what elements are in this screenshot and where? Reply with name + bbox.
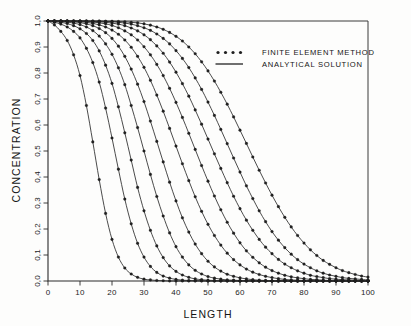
fem-marker [181,57,184,60]
fem-marker [213,153,216,156]
fem-marker [155,45,158,48]
fem-marker [251,156,254,159]
fem-marker [226,252,229,255]
fem-marker [347,277,350,280]
fem-marker [111,53,114,56]
fem-marker [200,123,203,126]
fem-marker [91,141,94,144]
fem-marker [98,35,101,38]
fem-marker [239,207,242,210]
fem-marker [322,259,325,262]
fem-marker [85,104,88,107]
fem-marker [149,120,152,123]
fem-marker [155,140,158,143]
fem-marker [271,269,274,272]
fem-marker [187,264,190,267]
fem-marker [143,209,146,212]
fem-marker [117,33,120,36]
fem-marker [168,181,171,184]
fem-marker [168,127,171,130]
fem-marker [53,24,56,27]
x-axis-tick-labels: 0102030405060708090100 [46,288,376,297]
fem-marker [194,278,197,281]
fem-marker [258,273,261,276]
fem-marker [175,245,178,248]
fem-marker [181,116,184,119]
fem-marker [111,20,114,23]
fem-marker [130,27,133,30]
fem-marker [207,70,210,73]
fem-marker [136,30,139,33]
fem-marker [130,33,133,36]
fem-marker [239,279,242,282]
fem-marker [194,148,197,151]
fem-marker [264,279,267,282]
fem-marker [219,244,222,247]
y-tick-label: 0,7 [33,93,42,105]
fem-marker [335,266,338,269]
fem-marker [79,37,82,40]
x-tick-label: 60 [235,288,245,297]
fem-marker [213,114,216,117]
fem-marker [200,164,203,167]
fem-marker [271,252,274,255]
fem-marker [155,245,158,248]
fem-marker [130,46,133,49]
fem-marker [149,24,152,27]
fem-marker [162,256,165,259]
fem-marker [232,157,235,160]
fem-marker [296,234,299,237]
fem-marker [181,274,184,277]
fem-marker [271,194,274,197]
fem-marker [136,55,139,58]
fem-marker [175,101,178,104]
fem-marker [155,63,158,66]
fem-marker [111,82,114,85]
fem-marker [296,258,299,261]
fem-marker [168,280,171,283]
fem-marker [136,186,139,189]
fem-marker [104,64,107,67]
fem-marker [200,252,203,255]
fem-marker [277,205,280,208]
fem-marker [149,173,152,176]
fem-marker [59,30,62,33]
fem-marker [162,28,165,31]
y-tick-label: 0,3 [33,197,42,209]
fem-marker [53,20,56,23]
fem-marker [187,46,190,49]
figure-container: 0102030405060708090100 0,00,10,20,30,40,… [0,0,411,326]
x-tick-label: 0 [46,288,51,297]
fem-marker [200,273,203,276]
fem-marker [175,278,178,281]
fem-marker [136,21,139,24]
fem-marker [155,26,158,29]
fem-marker [104,26,107,29]
fem-marker [367,279,370,282]
fem-marker [207,275,210,278]
fem-marker [245,268,248,271]
fem-marker [117,66,120,69]
fem-marker [187,279,190,282]
fem-marker [251,278,254,281]
fem-marker [143,150,146,153]
fem-marker [66,26,69,29]
legend-fem-dot [224,51,227,54]
fem-marker [98,178,101,181]
fem-marker [194,52,197,55]
fem-marker [175,270,178,273]
fem-marker [283,278,286,281]
fem-marker [155,33,158,36]
fem-marker [303,272,306,275]
y-tick-label: 1,0 [33,15,42,27]
fem-marker [283,246,286,249]
fem-marker [213,234,216,237]
x-tick-label: 100 [361,288,375,297]
fem-marker [143,100,146,103]
fem-marker [232,116,235,119]
fem-marker [136,39,139,42]
fem-marker [239,264,242,267]
fem-marker [143,33,146,36]
fem-marker [117,168,120,171]
fem-marker [175,145,178,148]
